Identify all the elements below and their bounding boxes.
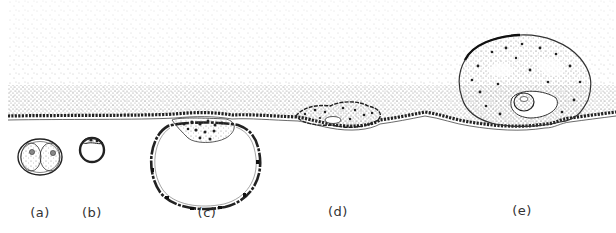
embryo-two-cell: [18, 139, 62, 175]
blastocyst-attaching: [151, 118, 260, 210]
embryo-compact: [80, 138, 104, 162]
panel-label-e: (e): [512, 203, 532, 218]
implantation-diagram: [0, 0, 616, 233]
panel-label-c: (c): [198, 205, 217, 220]
panel-label-a: (a): [30, 205, 50, 220]
panel-label-b: (b): [82, 205, 102, 220]
panel-label-d: (d): [328, 204, 348, 219]
